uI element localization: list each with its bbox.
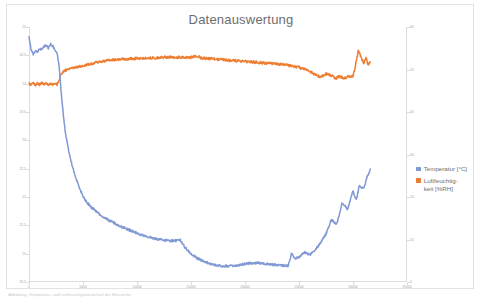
y-left-tick-label: 24 bbox=[22, 82, 26, 86]
y-right-tick-label: 10 bbox=[410, 238, 414, 242]
x-tick-label: 30000 bbox=[348, 285, 357, 289]
plot-area: 20.52121.52222.52323.52424.525 010203040… bbox=[29, 27, 407, 282]
y-left-tick-label: 25 bbox=[22, 25, 26, 29]
legend-item-temperatur[interactable]: Temperatur [°C] bbox=[416, 165, 482, 174]
figure-container: Datenauswertung 20.52121.52222.52323.524… bbox=[0, 0, 482, 305]
series-plot bbox=[29, 27, 407, 282]
legend-swatch-luftfeuchtigkeit-icon bbox=[416, 178, 421, 183]
x-tick-label: 15000 bbox=[186, 285, 195, 289]
figure-caption: Abbildung: Temperatur- und Luftfeuchtigk… bbox=[8, 292, 474, 298]
y-left-tick-label: 21 bbox=[22, 252, 26, 256]
legend-label-luftfeuchtigkeit: Luftfeuchtig- keit [%RH] bbox=[424, 177, 482, 194]
chart-title: Datenauswertung bbox=[7, 12, 475, 27]
y-right-tick-label: 0 bbox=[410, 280, 412, 284]
legend-label-line1: Luftfeuchtig- bbox=[424, 177, 458, 184]
legend-swatch-temperatur-icon bbox=[416, 167, 421, 172]
y-right-tick-label: 20 bbox=[410, 195, 414, 199]
x-tick-label: 10000 bbox=[132, 285, 141, 289]
chart-frame: Datenauswertung 20.52121.52222.52323.524… bbox=[6, 4, 474, 289]
y-left-tick-label: 24.5 bbox=[19, 53, 26, 57]
y-left-tick-label: 23.5 bbox=[19, 110, 26, 114]
y-left-tick-label: 22 bbox=[22, 195, 26, 199]
y-right-tick-label: 40 bbox=[410, 110, 414, 114]
legend-item-luftfeuchtigkeit[interactable]: Luftfeuchtig- keit [%RH] bbox=[416, 177, 482, 194]
series-line-luftfeuchtigkeit bbox=[29, 50, 370, 86]
legend-label-temperatur: Temperatur [°C] bbox=[424, 165, 482, 174]
x-tick-label: 5000 bbox=[79, 285, 87, 289]
y-left-tick-label: 23 bbox=[22, 138, 26, 142]
x-tick-label: 25000 bbox=[294, 285, 303, 289]
x-tick-label: 0 bbox=[28, 285, 30, 289]
x-tick-label: 35000 bbox=[402, 285, 411, 289]
x-tick-label: 20000 bbox=[240, 285, 249, 289]
y-left-tick-label: 22.5 bbox=[19, 167, 26, 171]
y-right-tick-label: 30 bbox=[410, 153, 414, 157]
legend-label-line2: keit [%RH] bbox=[424, 185, 453, 192]
chart-legend: Temperatur [°C] Luftfeuchtig- keit [%RH] bbox=[416, 165, 482, 197]
y-left-tick-label: 20.5 bbox=[19, 280, 26, 284]
series-line-temperatur bbox=[29, 37, 370, 267]
y-right-tick-label: 50 bbox=[410, 68, 414, 72]
y-right-tick-label: 60 bbox=[410, 25, 414, 29]
y-left-tick-label: 21.5 bbox=[19, 223, 26, 227]
